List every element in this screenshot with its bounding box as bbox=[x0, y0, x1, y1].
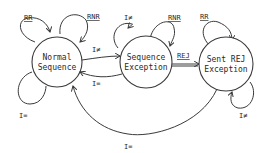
label-normal-to-seq: I≠ bbox=[92, 46, 100, 54]
state-label-line1: Normal bbox=[43, 53, 72, 62]
label-seq-rnr: RNR bbox=[168, 14, 181, 22]
state-circle-sentrej bbox=[199, 37, 253, 91]
label-normal-rr: RR bbox=[24, 14, 33, 22]
state-circle-normal bbox=[32, 37, 82, 87]
state-circle-sequence bbox=[120, 36, 172, 88]
state-label-line2: Exception bbox=[124, 63, 168, 72]
label-seq-ineq: I≠ bbox=[124, 14, 132, 22]
label-seq-to-normal: I= bbox=[92, 80, 100, 88]
label-seq-to-rej: REJ bbox=[177, 52, 190, 60]
state-sequence-exception: Sequence Exception bbox=[114, 22, 175, 88]
label-rej-ineq: I≠ bbox=[239, 112, 247, 120]
edge-normal-to-seq bbox=[82, 56, 120, 60]
state-label-line2: Sequence bbox=[38, 63, 77, 72]
state-normal-sequence: Normal Sequence bbox=[18, 15, 87, 104]
state-label-line1: Sequence bbox=[127, 53, 166, 62]
state-label-line1: Sent REJ bbox=[207, 55, 246, 64]
state-diagram: Normal Sequence Sequence Exception Sent … bbox=[0, 0, 262, 153]
state-label-line2: Exception bbox=[204, 65, 248, 74]
label-rej-rr: RR bbox=[200, 13, 209, 21]
edge-seq-to-normal bbox=[80, 72, 122, 77]
label-normal-rnr: RNR bbox=[87, 13, 100, 21]
edge-rej-to-normal bbox=[73, 86, 217, 135]
state-sent-rej-exception: Sent REJ Exception bbox=[199, 21, 254, 108]
label-rej-to-normal: I= bbox=[124, 143, 132, 151]
label-normal-ieq: I= bbox=[19, 112, 27, 120]
